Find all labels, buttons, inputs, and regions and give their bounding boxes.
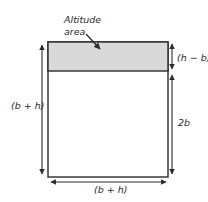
right-dimension-label: 2b [178, 117, 190, 128]
bottom-dimension-label: (b + h) [94, 184, 127, 195]
altitude-area-band [48, 42, 168, 71]
callout-label-line1: Altitude [63, 14, 101, 25]
altitude-area-diagram: Altitude area (h − b) 2b (b + h) (b + h) [0, 0, 208, 202]
callout-label-line2: area [64, 26, 86, 37]
top-right-dimension-label: (h − b) [177, 52, 208, 63]
left-dimension-label: (b + h) [11, 100, 44, 111]
